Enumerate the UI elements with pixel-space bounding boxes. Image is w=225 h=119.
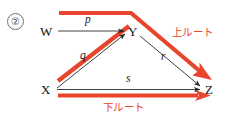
route-label-lower: 下ルート xyxy=(103,102,144,113)
edge-label-r: r xyxy=(161,51,165,63)
node-label-y: Y xyxy=(128,25,137,38)
node-label-w: W xyxy=(40,25,52,38)
edge-q-line xyxy=(57,34,125,88)
route-diagram-figure: ② W xyxy=(0,0,225,119)
route-label-upper: 上ルート xyxy=(172,27,213,38)
node-label-z: Z xyxy=(205,83,213,96)
edge-label-p: p xyxy=(85,14,91,26)
edge-label-s: s xyxy=(126,73,130,85)
node-label-x: X xyxy=(41,83,50,96)
lower-route-path xyxy=(58,90,211,101)
edge-label-q: q xyxy=(80,50,86,62)
